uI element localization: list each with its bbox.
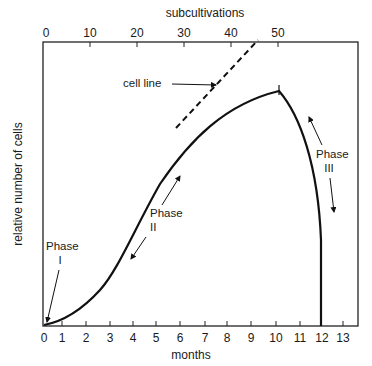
phase-1-arrow-icon — [47, 270, 59, 322]
bottom-tick-label: 5 — [153, 331, 160, 345]
phase-1-label: Phase — [46, 240, 79, 252]
bottom-tick-label: 4 — [130, 331, 137, 345]
phase-3-up-arrow-icon — [309, 117, 322, 145]
bottom-tick-label: 13 — [336, 331, 350, 345]
top-axis-title: subcultivations — [166, 6, 245, 20]
phase-3-annotation: Phase III — [309, 117, 349, 212]
phase-1-annotation: Phase I — [46, 240, 79, 322]
bottom-tick-label: 3 — [107, 331, 114, 345]
bottom-axis-ticks — [62, 321, 343, 326]
cell-line-label: cell line — [123, 77, 161, 89]
top-tick-label: 30 — [177, 26, 191, 40]
phase-2-label: Phase — [150, 207, 183, 219]
bottom-tick-label: 2 — [83, 331, 90, 345]
top-tick-label: 40 — [224, 26, 238, 40]
bottom-tick-label: 8 — [224, 331, 231, 345]
phase-3-label: Phase — [316, 148, 349, 160]
phase-2-down-arrow-icon — [131, 237, 146, 259]
phase-1-number: I — [58, 254, 61, 266]
bottom-tick-label: 11 — [294, 331, 307, 345]
top-tick-label: 20 — [130, 26, 144, 40]
bottom-tick-label: 6 — [177, 331, 184, 345]
top-axis-ticks — [90, 42, 278, 47]
cell-growth-chart: subcultivations 0 10 20 30 40 50 0 1 2 3… — [0, 0, 372, 366]
top-tick-label: 10 — [83, 26, 97, 40]
phase-3-number: III — [324, 162, 334, 174]
y-axis-title: relative number of cells — [11, 122, 25, 245]
cell-line-arrow-icon — [172, 84, 216, 85]
bottom-tick-label: 9 — [248, 331, 255, 345]
bottom-axis-title: months — [171, 348, 210, 362]
bottom-tick-label: 7 — [202, 331, 209, 345]
bottom-tick-label: 12 — [315, 331, 329, 345]
bottom-tick-label: 10 — [269, 331, 283, 345]
top-tick-label: 0 — [43, 26, 50, 40]
phase-3-down-arrow-icon — [330, 178, 334, 212]
top-axis-tick-labels: 0 10 20 30 40 50 — [43, 26, 285, 40]
bottom-tick-label: 0 — [41, 331, 48, 345]
phase-2-number: II — [150, 221, 156, 233]
bottom-axis-tick-labels: 0 1 2 3 4 5 6 7 8 9 10 11 12 13 — [41, 331, 350, 345]
phase-2-up-arrow-icon — [162, 176, 180, 205]
top-tick-label: 50 — [271, 26, 285, 40]
bottom-tick-label: 1 — [59, 331, 66, 345]
